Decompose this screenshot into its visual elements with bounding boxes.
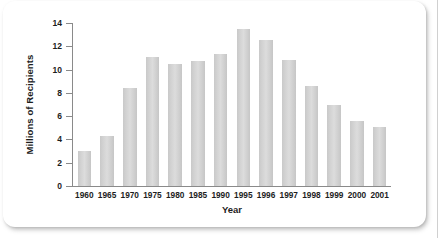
page-right-edge-line [437, 0, 438, 238]
bar-chart: Millions of Recipients 02468101214 19601… [3, 1, 426, 227]
y-axis-tick-label: 14 [46, 18, 62, 28]
y-axis-tick-label: 6 [46, 111, 62, 121]
bar [350, 121, 364, 186]
bar [146, 57, 160, 186]
y-axis-tick-label: 8 [46, 88, 62, 98]
y-axis-tick [66, 139, 72, 140]
x-axis-title: Year [73, 204, 391, 215]
bar [305, 86, 319, 186]
x-axis-tick-label: 1999 [323, 190, 346, 200]
bar [214, 54, 228, 186]
y-axis-tick-label: 0 [46, 181, 62, 191]
y-axis-tick-label: 10 [46, 65, 62, 75]
y-axis-tick [66, 186, 72, 187]
y-axis-tick [66, 70, 72, 71]
x-axis-tick-label: 1970 [118, 190, 141, 200]
y-axis-tick [66, 23, 72, 24]
x-axis-tick-label: 2000 [346, 190, 369, 200]
y-axis-tick-label: 4 [46, 134, 62, 144]
x-axis-tick-label: 1960 [73, 190, 96, 200]
chart-card: Millions of Recipients 02468101214 19601… [3, 1, 426, 227]
bar [237, 29, 251, 186]
x-axis-tick-label: 1975 [141, 190, 164, 200]
x-axis-tick-label: 1996 [255, 190, 278, 200]
bar [78, 151, 92, 186]
y-axis-line [72, 23, 73, 186]
x-axis-tick-label: 1985 [187, 190, 210, 200]
y-axis-tick [66, 93, 72, 94]
x-axis-tick-label: 1965 [96, 190, 119, 200]
y-axis-tick-label: 12 [46, 41, 62, 51]
x-axis-tick-label: 1998 [300, 190, 323, 200]
x-axis-tick-label: 2001 [368, 190, 391, 200]
y-axis-tick-label: 2 [46, 158, 62, 168]
bar [100, 136, 114, 186]
y-axis-tick [66, 163, 72, 164]
y-axis-tick [66, 46, 72, 47]
bar [191, 61, 205, 186]
x-axis-line [72, 186, 391, 187]
x-axis-tick-label: 1980 [164, 190, 187, 200]
x-axis-tick-label: 1997 [277, 190, 300, 200]
y-axis-tick [66, 116, 72, 117]
bar [327, 105, 341, 187]
bar [168, 64, 182, 186]
bar [259, 40, 273, 186]
x-axis-tick-label: 1990 [209, 190, 232, 200]
bar [123, 88, 137, 186]
bar [373, 127, 387, 186]
bar [282, 60, 296, 186]
x-axis-tick-label: 1995 [232, 190, 255, 200]
y-axis-title: Millions of Recipients [24, 35, 35, 175]
